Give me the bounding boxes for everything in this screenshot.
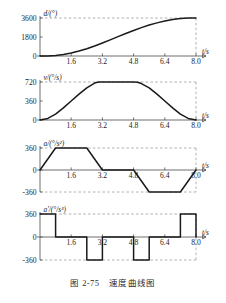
x-tick-label: 1.6 [66,171,76,180]
x-ticks: 1.63.24.86.48.0 [66,53,200,66]
x-tick-label: 6.4 [160,238,170,247]
y-tick-label: 3600 [21,14,36,23]
y-axis-label: a/(°/s²) [44,139,65,148]
y-tick-label: 0 [33,116,37,125]
x-tick-label: 4.8 [129,121,139,130]
chart-velocity: 03607201.63.24.86.48.0v/(°/s)t/s [0,68,226,134]
x-tick-label: 3.2 [98,171,108,180]
chart-panel-velocity: 03607201.63.24.86.48.0v/(°/s)t/s [0,68,226,134]
figure-caption: 图 2-75 速度曲线图 [0,276,226,288]
y-tick-label: 0 [33,233,37,242]
y-tick-label: 1800 [21,33,36,42]
y-tick-label: 0 [33,52,37,61]
data-curve-velocity [40,82,196,120]
x-tick-label: 1.6 [66,57,76,66]
guide-lines [40,82,196,120]
y-tick-label: -360 [23,256,37,265]
velocity-profile-figure: 0180036001.63.24.86.48.0d/(°)t/s 0360720… [0,0,226,303]
chart-jerk: -36003601.63.24.86.48.0a'/(°/s³)t/s [0,202,226,268]
axes [37,16,206,58]
x-tick-label: 8.0 [191,238,201,247]
chart-panel-acceleration: -36003601.63.24.86.48.0a/(°/s²)t/s [0,136,226,200]
x-tick-label: 1.6 [66,121,76,130]
x-axis-label: t/s [202,161,209,170]
y-tick-label: 360 [25,144,37,153]
axes [37,80,206,122]
y-tick-label: 0 [33,166,37,175]
data-curve-position [40,18,196,56]
x-tick-label: 6.4 [160,121,170,130]
y-axis-label: a'/(°/s³) [44,205,67,214]
y-ticks: 018003600 [21,14,42,61]
x-tick-label: 3.2 [98,57,108,66]
y-tick-label: 360 [25,210,37,219]
x-axis-label: t/s [202,111,209,120]
y-tick-label: 360 [25,97,37,106]
x-ticks: 1.63.24.86.48.0 [66,117,200,130]
x-axis-label: t/s [202,228,209,237]
y-tick-label: 720 [25,78,37,87]
x-tick-label: 1.6 [66,238,76,247]
chart-acceleration: -36003601.63.24.86.48.0a/(°/s²)t/s [0,136,226,200]
x-tick-label: 6.4 [160,57,170,66]
chart-panel-position: 0180036001.63.24.86.48.0d/(°)t/s [0,4,226,70]
x-tick-label: 4.8 [129,57,139,66]
y-tick-label: -360 [23,188,37,197]
y-axis-label: v/(°/s) [44,73,63,82]
x-axis-label: t/s [202,47,209,56]
chart-panel-jerk: -36003601.63.24.86.48.0a'/(°/s³)t/s [0,202,226,268]
x-tick-label: 3.2 [98,121,108,130]
x-tick-label: 8.0 [191,121,201,130]
y-axis-label: d/(°) [44,9,58,18]
data-curve-jerk [40,214,196,260]
x-tick-label: 8.0 [191,57,201,66]
axes [37,146,206,192]
x-tick-label: 6.4 [160,171,170,180]
chart-position: 0180036001.63.24.86.48.0d/(°)t/s [0,4,226,70]
